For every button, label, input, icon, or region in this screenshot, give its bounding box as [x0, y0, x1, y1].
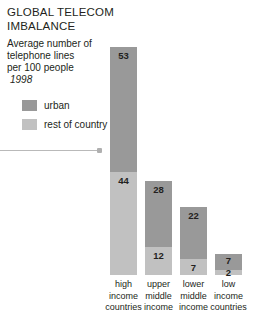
bar-group-high-income-countries: 53 44	[110, 47, 137, 275]
bar-value-urban: 7	[215, 255, 242, 266]
plot-area: 53 44 28 12 22 7 7	[0, 0, 254, 316]
category-label-line-1: lower	[175, 279, 213, 291]
category-label-low-income-countries: low income countries	[210, 279, 248, 314]
bar-segment-urban: 22	[180, 207, 207, 259]
bar-segment-urban: 28	[145, 181, 172, 247]
bar-group-upper-middle-income: 28 12	[145, 181, 172, 275]
category-label-line-2: income	[210, 291, 248, 303]
bar-group-lower-middle-income: 22 7	[180, 207, 207, 275]
category-label-line-3: income	[175, 302, 213, 314]
category-label-high-income-countries: high income countries	[105, 279, 143, 314]
bar-value-rest-of-country: 44	[110, 175, 137, 186]
category-label-line-2: middle	[140, 291, 178, 303]
bar-segment-urban: 53	[110, 47, 137, 172]
bar-value-rest-of-country: 2	[215, 267, 242, 278]
bar-value-urban: 28	[145, 184, 172, 195]
bar-segment-rest-of-country: 7	[180, 259, 207, 275]
category-label-line-1: high	[105, 279, 143, 291]
bar-segment-rest-of-country: 44	[110, 172, 137, 275]
category-label-line-3: countries	[210, 302, 248, 314]
category-label-upper-middle-income: upper middle income	[140, 279, 178, 314]
category-label-line-3: countries	[105, 302, 143, 314]
category-label-line-1: low	[210, 279, 248, 291]
category-label-line-2: income	[105, 291, 143, 303]
chart-figure: GLOBAL TELECOM IMBALANCE Average number …	[0, 0, 254, 316]
bar-value-urban: 22	[180, 210, 207, 221]
bar-value-rest-of-country: 7	[180, 262, 207, 273]
category-label-line-3: income	[140, 302, 178, 314]
category-label-line-1: upper	[140, 279, 178, 291]
bar-group-low-income-countries: 7 2	[215, 254, 242, 275]
bar-segment-rest-of-country: 12	[145, 247, 172, 275]
category-label-line-2: middle	[175, 291, 213, 303]
category-label-lower-middle-income: lower middle income	[175, 279, 213, 314]
bar-segment-rest-of-country: 2	[215, 270, 242, 275]
bar-value-rest-of-country: 12	[145, 250, 172, 261]
bar-value-urban: 53	[110, 50, 137, 61]
